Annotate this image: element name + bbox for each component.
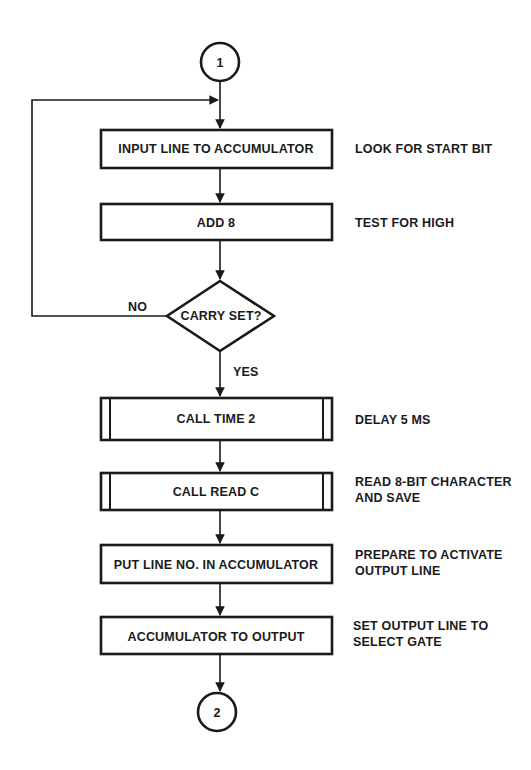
- step-annotation-line1: READ 8-BIT CHARACTER: [355, 475, 512, 489]
- step-annotation-line1: PREPARE TO ACTIVATE: [355, 548, 503, 562]
- step-label: ADD 8: [197, 216, 236, 230]
- no-label: NO: [128, 300, 147, 314]
- step-label: ACCUMULATOR TO OUTPUT: [127, 630, 304, 644]
- step-label: INPUT LINE TO ACCUMULATOR: [118, 142, 314, 156]
- step-call-time-2: CALL TIME 2: [101, 398, 332, 440]
- start-connector: 1: [201, 43, 239, 81]
- step-annotation: DELAY 5 MS: [355, 413, 431, 427]
- step-annotation: LOOK FOR START BIT: [355, 142, 493, 156]
- flowchart: 1 INPUT LINE TO ACCUMULATOR LOOK FOR STA…: [0, 0, 531, 770]
- step-annotation-line1: SET OUTPUT LINE TO: [353, 619, 488, 633]
- step-accumulator-to-output: ACCUMULATOR TO OUTPUT: [101, 617, 332, 654]
- step-annotation: TEST FOR HIGH: [355, 216, 454, 230]
- step-annotation-line2: SELECT GATE: [353, 635, 442, 649]
- step-annotation-line2: OUTPUT LINE: [355, 564, 441, 578]
- start-connector-label: 1: [216, 56, 223, 70]
- yes-label: YES: [233, 365, 259, 379]
- step-annotation-line2: AND SAVE: [355, 491, 420, 505]
- step-label: PUT LINE NO. IN ACCUMULATOR: [114, 558, 318, 572]
- decision-label: CARRY SET?: [180, 309, 261, 323]
- step-call-read-c: CALL READ C: [101, 473, 332, 510]
- step-label: CALL READ C: [173, 485, 260, 499]
- end-connector-label: 2: [213, 706, 220, 720]
- step-put-line-no: PUT LINE NO. IN ACCUMULATOR: [101, 545, 332, 583]
- step-add-8: ADD 8: [101, 204, 332, 240]
- end-connector: 2: [198, 693, 236, 731]
- step-input-line: INPUT LINE TO ACCUMULATOR: [101, 130, 332, 168]
- step-label: CALL TIME 2: [176, 412, 255, 426]
- decision-carry-set: CARRY SET?: [167, 281, 274, 351]
